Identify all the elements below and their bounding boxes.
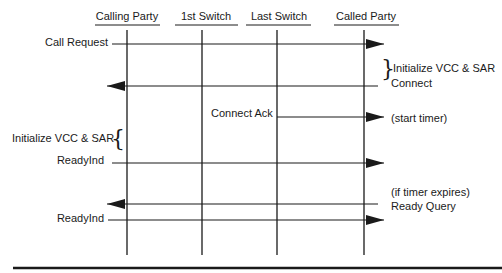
- participant-header-calling-party: Calling Party: [92, 10, 162, 23]
- annotation-init-called: Initialize VCC & SAR: [393, 62, 495, 75]
- arrowhead-right-icon: [366, 112, 384, 122]
- message-label-readyind-2: ReadyInd: [20, 212, 104, 225]
- annotation-if-timer-expires: (if timer expires): [391, 186, 470, 199]
- message-label-call-request: Call Request: [20, 36, 108, 49]
- message-label-connect-ack: Connect Ack: [211, 107, 273, 120]
- annotation-start-timer: (start timer): [391, 112, 447, 125]
- arrowhead-right-icon: [366, 39, 384, 49]
- participant-header-1st-switch: 1st Switch: [172, 10, 240, 23]
- participant-header-last-switch: Last Switch: [244, 10, 314, 23]
- arrowhead-right-icon: [366, 215, 384, 225]
- arrowhead-left-icon: [107, 81, 125, 91]
- message-label-ready-query: Ready Query: [391, 200, 456, 213]
- annotation-init-calling: Initialize VCC & SAR: [12, 132, 114, 145]
- message-label-readyind-1: ReadyInd: [20, 154, 104, 167]
- participant-header-called-party: Called Party: [331, 10, 401, 23]
- arrowhead-right-icon: [366, 158, 384, 168]
- arrowhead-left-icon: [107, 199, 125, 209]
- message-label-connect: Connect: [391, 77, 432, 90]
